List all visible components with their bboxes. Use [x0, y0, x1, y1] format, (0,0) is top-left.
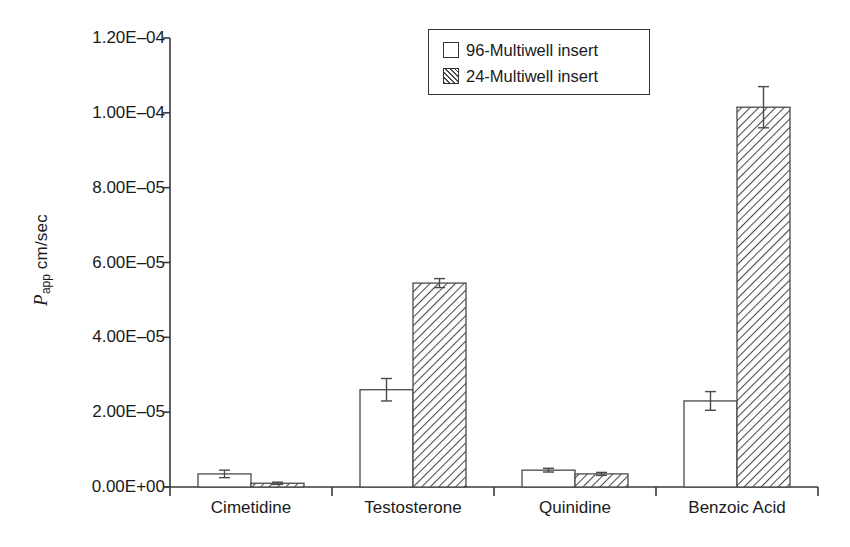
- plot-area: [0, 0, 850, 547]
- chart-figure: Papp cm/sec 0.00E+002.00E–054.00E–056.00…: [0, 0, 850, 547]
- bar-benzoic-acid-series-0: [684, 401, 737, 487]
- bar-testosterone-series-1: [413, 283, 466, 487]
- bar-benzoic-acid-series-1: [737, 107, 790, 487]
- bar-group: [198, 87, 790, 487]
- bar-testosterone-series-0: [360, 390, 413, 487]
